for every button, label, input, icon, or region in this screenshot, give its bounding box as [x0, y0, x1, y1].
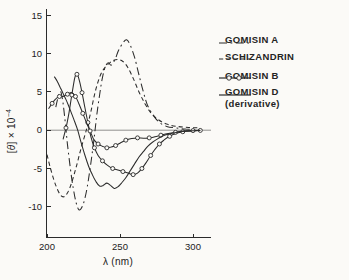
- marker-circle-series-2: [111, 167, 115, 171]
- marker-circle-series-3: [96, 142, 100, 146]
- y-tick-label-10: 10: [31, 48, 42, 59]
- marker-circle-series-3: [65, 92, 69, 96]
- y-axis-label: [θ] × 10−4: [5, 72, 19, 190]
- marker-circle-series-2: [121, 170, 125, 174]
- marker-circle-series-2: [64, 126, 68, 130]
- x-axis-label: λ (nm): [68, 256, 168, 267]
- marker-circle-series-2: [157, 142, 161, 146]
- marker-circle-series-3: [50, 101, 54, 105]
- marker-circle-series-2: [75, 72, 79, 76]
- y-tick-label--5: -5: [34, 163, 42, 174]
- curve-gomisin-b: [63, 74, 200, 174]
- y-tick-label-0: 0: [37, 124, 42, 135]
- curve-gomisin-d-derivative-: [54, 77, 200, 189]
- marker-circle-series-2: [131, 173, 135, 177]
- marker-circle-series-3: [57, 94, 61, 98]
- curve-gomisin-a: [56, 40, 201, 210]
- marker-circle-series-3: [114, 144, 118, 148]
- marker-circle-series-3: [147, 136, 151, 140]
- marker-circle-series-3: [124, 138, 128, 142]
- marker-circle-series-2: [92, 146, 96, 150]
- y-tick-label--10: -10: [28, 201, 42, 212]
- marker-circle-series-2: [168, 134, 172, 138]
- x-tick-label-250: 250: [112, 241, 128, 252]
- y-tick-label-15: 15: [31, 10, 42, 21]
- marker-circle-series-3: [88, 129, 92, 133]
- marker-circle-series-3: [73, 94, 77, 98]
- marker-circle-series-3: [105, 146, 109, 150]
- x-tick-label-300: 300: [185, 241, 201, 252]
- marker-circle-series-3: [136, 136, 140, 140]
- marker-circle-series-3: [81, 111, 85, 115]
- marker-circle-series-2: [80, 91, 84, 95]
- cd-spectra-chart: 151050-5-10200250300: [0, 0, 349, 280]
- cd-spectra-figure: 151050-5-10200250300 [θ] × 10−4 λ (nm) G…: [0, 0, 349, 280]
- y-tick-label-5: 5: [37, 86, 42, 97]
- marker-circle-series-2: [100, 159, 104, 163]
- x-tick-label-200: 200: [39, 241, 55, 252]
- marker-circle-series-2: [140, 167, 144, 171]
- marker-circle-series-2: [149, 153, 153, 157]
